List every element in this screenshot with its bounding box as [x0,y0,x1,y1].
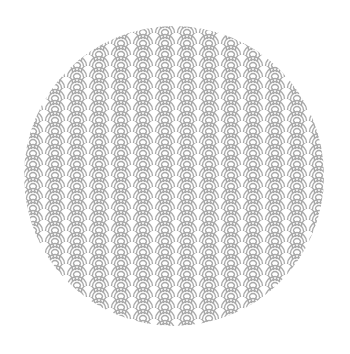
wave-pattern-fill [0,0,350,354]
seigaiha-circle-artwork [0,0,350,354]
